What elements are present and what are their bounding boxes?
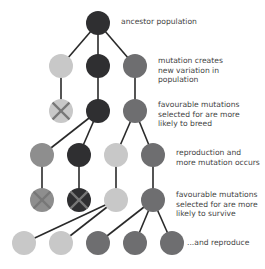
- individual-node: [104, 143, 128, 167]
- individual-node: [160, 231, 184, 255]
- population-circle: [86, 99, 110, 123]
- population-circle: [141, 143, 165, 167]
- individual-node: [123, 231, 147, 255]
- individual-node: [123, 99, 147, 123]
- population-circle: [123, 99, 147, 123]
- population-circle: [123, 231, 147, 255]
- label-selected-to-survive: favourable mutations selected for are mo…: [176, 190, 258, 219]
- eliminated-individual-node: [67, 188, 91, 212]
- individual-node: [141, 188, 165, 212]
- population-circle: [160, 231, 184, 255]
- individual-node: [123, 54, 147, 78]
- individual-node: [141, 143, 165, 167]
- individual-node: [86, 99, 110, 123]
- eliminated-individual-node: [30, 188, 54, 212]
- individual-node: [104, 188, 128, 212]
- population-circle: [12, 231, 36, 255]
- individual-node: [86, 11, 110, 35]
- individual-node: [49, 231, 73, 255]
- population-circle: [86, 11, 110, 35]
- individual-node: [30, 143, 54, 167]
- individual-node: [67, 143, 91, 167]
- population-circle: [49, 231, 73, 255]
- population-circle: [104, 188, 128, 212]
- label-reproduction-mutation: reproduction and more mutation occurs: [176, 148, 260, 167]
- label-and-reproduce: ...and reproduce: [187, 238, 249, 248]
- individual-node: [49, 54, 73, 78]
- label-mutation-creates-variation: mutation creates new variation in popula…: [158, 56, 223, 85]
- label-ancestor-population: ancestor population: [121, 17, 197, 27]
- population-circle: [67, 143, 91, 167]
- evolution-tree-diagram: [0, 0, 265, 269]
- individual-node: [12, 231, 36, 255]
- population-circle: [86, 54, 110, 78]
- population-circle: [49, 54, 73, 78]
- population-circle: [30, 143, 54, 167]
- label-selected-to-breed: favourable mutations selected for are mo…: [158, 100, 240, 129]
- population-circle: [123, 54, 147, 78]
- population-circle: [86, 231, 110, 255]
- population-circle: [104, 143, 128, 167]
- individual-node: [86, 54, 110, 78]
- eliminated-individual-node: [49, 99, 73, 123]
- individual-node: [86, 231, 110, 255]
- population-circle: [141, 188, 165, 212]
